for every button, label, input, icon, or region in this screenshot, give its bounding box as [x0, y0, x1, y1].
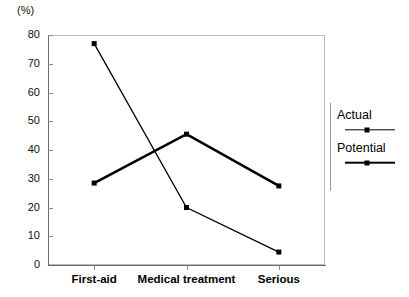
- x-tick-mark: [187, 265, 188, 270]
- y-tick-mark: [48, 35, 53, 36]
- y-tick-label: 10: [0, 230, 40, 241]
- legend-marker: [365, 160, 370, 165]
- y-tick-mark: [48, 208, 53, 209]
- legend-label: Potential: [337, 141, 409, 156]
- y-tick-mark: [48, 150, 53, 151]
- legend-swatch: [345, 157, 395, 168]
- y-tick-label: 70: [0, 58, 40, 69]
- plot-area-frame: [48, 35, 325, 265]
- legend-entry-actual[interactable]: Actual: [337, 108, 409, 135]
- y-tick-label: 0: [0, 259, 40, 270]
- y-tick-mark: [48, 93, 53, 94]
- y-tick-mark: [48, 179, 53, 180]
- y-tick-label: 50: [0, 115, 40, 126]
- chart-root: (%) 01020304050607080 First-aidMedical t…: [0, 0, 409, 297]
- y-tick-label: 60: [0, 87, 40, 98]
- x-tick-label: Medical treatment: [138, 273, 236, 286]
- x-tick-mark: [94, 265, 95, 270]
- legend-marker: [365, 127, 370, 132]
- y-tick-label: 20: [0, 202, 40, 213]
- y-tick-mark: [48, 64, 53, 65]
- legend-divider: [330, 103, 331, 191]
- y-tick-label: 30: [0, 173, 40, 184]
- y-tick-mark: [48, 236, 53, 237]
- y-axis-unit-label: (%): [17, 5, 34, 16]
- chart-legend: ActualPotential: [337, 108, 409, 174]
- y-tick-label: 40: [0, 144, 40, 155]
- x-tick-label: First-aid: [71, 273, 116, 286]
- legend-line: [345, 129, 395, 130]
- x-tick-label: Serious: [258, 273, 300, 286]
- legend-label: Actual: [337, 108, 409, 123]
- y-tick-label: 80: [0, 29, 40, 40]
- legend-entry-potential[interactable]: Potential: [337, 141, 409, 168]
- legend-swatch: [345, 124, 395, 135]
- y-tick-mark: [48, 121, 53, 122]
- legend-line: [345, 161, 395, 164]
- x-tick-mark: [279, 265, 280, 270]
